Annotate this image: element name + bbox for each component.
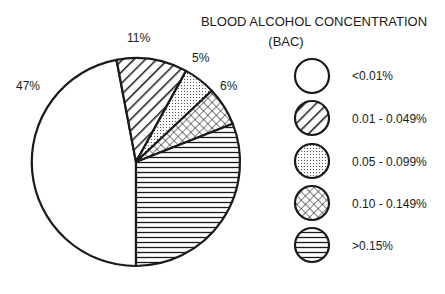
legend-swatch-horizontal [295,228,329,262]
legend-swatch-crosshatch [295,186,329,220]
slice-label-5: 5% [192,51,210,65]
legend-swatch-diagonal [295,101,329,135]
legend-label-2: 0.05 - 0.099% [352,155,427,169]
legend-label-1: 0.01 - 0.049% [352,112,427,126]
legend-label-4: >0.15% [352,239,393,253]
legend [295,59,329,262]
pie [32,58,240,266]
slice-label-6: 6% [220,79,238,93]
legend-label-0: <0.01% [352,69,393,83]
bac-pie-chart: 47% 11% 5% 6% BLOOD ALCOHOL CONCENTRATIO… [0,0,445,294]
chart-subtitle: (BAC) [268,34,303,49]
slice-label-11: 11% [127,31,150,45]
legend-swatch-dots [295,144,329,178]
legend-label-3: 0.10 - 0.149% [352,197,427,211]
chart-title: BLOOD ALCOHOL CONCENTRATION [201,14,427,29]
slice-label-47: 47% [16,79,40,93]
legend-swatch-blank [295,59,329,93]
slice-lt-0-01 [32,60,136,266]
